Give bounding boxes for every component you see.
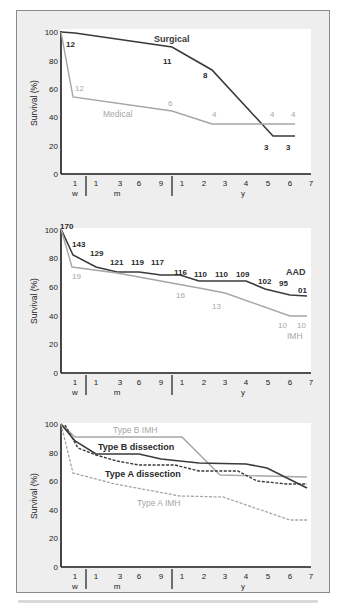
svg-text:3: 3: [264, 143, 269, 152]
svg-text:6: 6: [288, 378, 293, 387]
svg-text:1: 1: [180, 572, 185, 581]
svg-text:80: 80: [49, 449, 58, 458]
svg-text:110: 110: [194, 270, 207, 279]
svg-text:y: y: [241, 582, 245, 591]
y-ticks: 100 80 60 40 20 0: [45, 28, 59, 179]
y-tick: 0: [54, 170, 59, 179]
svg-text:143: 143: [72, 240, 86, 249]
svg-text:9: 9: [159, 572, 164, 581]
series-label-aad: AAD: [286, 267, 306, 277]
svg-text:121: 121: [110, 258, 124, 267]
plot-area: [61, 29, 311, 174]
svg-text:1: 1: [73, 572, 78, 581]
chart-aad-vs-imh: 100 80 60 40 20 0 Survival (%) 1 1 3 6 9…: [29, 222, 314, 397]
y-tick: 100: [45, 28, 59, 37]
svg-text:4: 4: [291, 110, 296, 119]
figure-caption: [18, 600, 318, 606]
svg-text:3: 3: [118, 378, 123, 387]
svg-text:1: 1: [94, 378, 99, 387]
svg-text:y: y: [241, 189, 245, 198]
svg-text:60: 60: [49, 477, 58, 486]
svg-text:1: 1: [94, 179, 99, 188]
svg-text:12: 12: [66, 40, 75, 49]
svg-text:102: 102: [258, 277, 272, 286]
svg-text:7: 7: [309, 572, 314, 581]
svg-text:109: 109: [236, 270, 250, 279]
svg-text:2: 2: [202, 378, 207, 387]
svg-text:6: 6: [288, 572, 293, 581]
svg-text:3: 3: [286, 143, 291, 152]
svg-text:110: 110: [215, 270, 228, 279]
caption-line-illegible: [18, 600, 318, 603]
svg-text:m: m: [114, 582, 121, 591]
svg-text:129: 129: [90, 249, 104, 258]
svg-text:1: 1: [180, 378, 185, 387]
svg-text:2: 2: [202, 179, 207, 188]
y-tick: 20: [49, 142, 58, 151]
y-axis-label: Survival (%): [29, 473, 39, 519]
svg-text:7: 7: [309, 179, 314, 188]
y-ticks: 100 80 60 40 20 0: [45, 420, 59, 572]
svg-text:5: 5: [266, 572, 271, 581]
svg-text:100: 100: [45, 226, 59, 235]
svg-text:13: 13: [212, 302, 221, 311]
svg-text:4: 4: [212, 110, 217, 119]
y-tick: 60: [49, 85, 58, 94]
svg-text:6: 6: [137, 572, 142, 581]
svg-text:19: 19: [72, 272, 81, 281]
svg-text:1: 1: [94, 572, 99, 581]
svg-text:6: 6: [137, 378, 142, 387]
svg-text:2: 2: [202, 572, 207, 581]
series-label-type-a-imh: Type A IMH: [137, 498, 180, 508]
series-label-type-a-dissection: Type A dissection: [105, 469, 181, 479]
svg-text:4: 4: [244, 378, 249, 387]
svg-text:116: 116: [174, 268, 187, 277]
svg-text:20: 20: [49, 534, 58, 543]
svg-text:16: 16: [176, 291, 185, 300]
svg-text:10: 10: [297, 321, 306, 330]
svg-text:w: w: [71, 388, 78, 397]
chart-surgical-vs-medical: 100 80 60 40 20 0 Survival (%) 1 1 3 6 9…: [29, 28, 314, 198]
svg-text:6: 6: [168, 99, 173, 108]
series-label-imh: IMH: [287, 331, 303, 341]
svg-text:m: m: [114, 388, 121, 397]
svg-text:119: 119: [131, 258, 144, 267]
svg-text:0: 0: [54, 563, 59, 572]
svg-text:3: 3: [223, 378, 228, 387]
svg-text:4: 4: [244, 572, 249, 581]
svg-text:20: 20: [49, 340, 58, 349]
svg-text:5: 5: [266, 179, 271, 188]
svg-text:3: 3: [223, 179, 228, 188]
x-ticks: 1 1 3 6 9 1 2 3 4 5 6 7 w m y: [71, 179, 314, 198]
svg-text:y: y: [241, 388, 245, 397]
svg-text:12: 12: [75, 84, 84, 93]
svg-text:117: 117: [151, 258, 164, 267]
svg-text:40: 40: [49, 506, 58, 515]
svg-text:3: 3: [118, 179, 123, 188]
y-axis-label: Survival (%): [29, 278, 39, 324]
svg-text:3: 3: [223, 572, 228, 581]
svg-text:6: 6: [288, 179, 293, 188]
y-ticks: 100 80 60 40 20 0: [45, 226, 59, 378]
svg-text:3: 3: [118, 572, 123, 581]
svg-text:1: 1: [73, 378, 78, 387]
svg-text:m: m: [114, 189, 121, 198]
svg-text:1: 1: [73, 179, 78, 188]
svg-text:4: 4: [270, 110, 275, 119]
x-ticks: 1 1 3 6 9 1 2 3 4 5 6 7 w m y: [71, 378, 314, 397]
chart-type-ab: 100 80 60 40 20 0 Survival (%) 1 1 3 6 9…: [29, 420, 314, 591]
svg-text:01: 01: [298, 286, 307, 295]
series-label-type-b-imh: Type B IMH: [113, 425, 157, 435]
svg-text:6: 6: [137, 179, 142, 188]
svg-text:40: 40: [49, 312, 58, 321]
svg-text:5: 5: [266, 378, 271, 387]
svg-text:170: 170: [60, 222, 74, 231]
svg-text:9: 9: [159, 179, 164, 188]
svg-text:4: 4: [244, 179, 249, 188]
series-label-surgical: Surgical: [154, 34, 190, 44]
series-label-medical: Medical: [103, 109, 132, 119]
survival-charts: 100 80 60 40 20 0 Survival (%) 1 1 3 6 9…: [0, 0, 340, 614]
svg-text:11: 11: [163, 57, 172, 66]
svg-text:95: 95: [279, 279, 288, 288]
y-tick: 40: [49, 113, 58, 122]
